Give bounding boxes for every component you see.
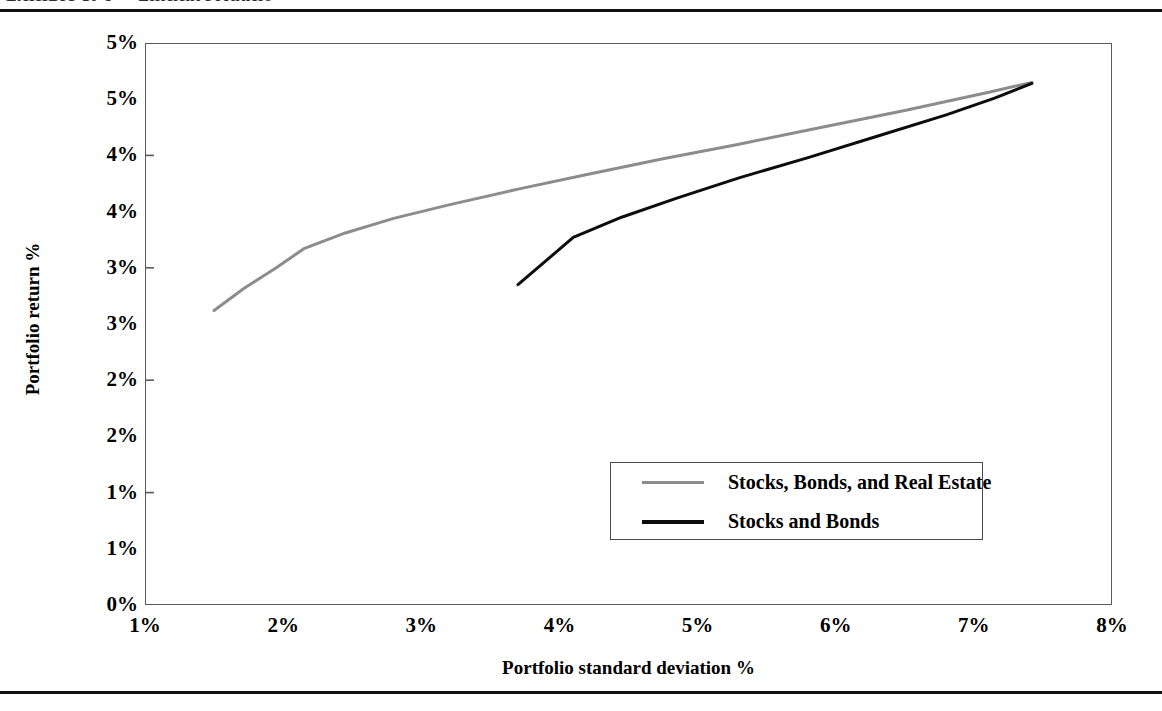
y-axis-tick-label: 4% xyxy=(76,144,138,165)
legend-label-stocks-bonds: Stocks and Bonds xyxy=(728,510,879,533)
chart-area: 0%1%1%2%2%3%3%4%4%5%5% 1%2%3%4%5%6%7%8% … xyxy=(0,14,1162,689)
legend-item: Stocks, Bonds, and Real Estate xyxy=(611,463,984,502)
x-axis-tick-label: 2% xyxy=(248,615,318,636)
x-axis-tick-label: 3% xyxy=(386,615,456,636)
y-axis-tick-labels: 0%1%1%2%2%3%3%4%4%5%5% xyxy=(60,43,138,605)
y-axis-tick-label: 4% xyxy=(76,201,138,222)
y-axis-tick-label: 1% xyxy=(76,482,138,503)
y-axis-tick-label: 3% xyxy=(76,313,138,334)
x-axis-tick-label: 6% xyxy=(801,615,871,636)
series-line-stocks-bonds xyxy=(518,83,1032,284)
bottom-rule xyxy=(0,691,1162,694)
x-axis-tick-label: 8% xyxy=(1077,615,1147,636)
y-axis-tick-label: 2% xyxy=(76,425,138,446)
x-axis-tick-label: 5% xyxy=(663,615,733,636)
x-axis-title: Portfolio standard deviation % xyxy=(145,657,1112,679)
chart-legend: Stocks, Bonds, and Real Estate Stocks an… xyxy=(610,462,983,540)
y-axis-title: Portfolio return % xyxy=(22,199,44,439)
x-axis-tick-label: 4% xyxy=(524,615,594,636)
legend-color-swatch-stocks-bonds xyxy=(642,520,704,524)
x-axis-tick-label: 7% xyxy=(939,615,1009,636)
y-axis-tick-label: 5% xyxy=(76,88,138,109)
y-axis-tick-label: 0% xyxy=(76,594,138,615)
y-axis-tick-label: 2% xyxy=(76,369,138,390)
y-axis-tick-label: 3% xyxy=(76,257,138,278)
y-axis-tick-label: 5% xyxy=(76,32,138,53)
x-axis-tick-labels: 1%2%3%4%5%6%7%8% xyxy=(145,615,1112,645)
legend-color-swatch-real-estate xyxy=(642,481,704,484)
exhibit-title: Efficient Frontiers xyxy=(138,0,272,4)
exhibit-number: EXHIBIT 10-8 xyxy=(6,0,112,4)
top-rule xyxy=(0,9,1162,12)
exhibit-page: EXHIBIT 10-8Efficient Frontiers 0%1%1%2%… xyxy=(0,0,1162,711)
exhibit-caption: EXHIBIT 10-8Efficient Frontiers xyxy=(6,0,272,5)
legend-label-real-estate: Stocks, Bonds, and Real Estate xyxy=(728,471,991,494)
series-line-real-estate xyxy=(214,82,1032,310)
y-axis-tick-label: 1% xyxy=(76,538,138,559)
legend-item: Stocks and Bonds xyxy=(611,502,984,541)
x-axis-tick-label: 1% xyxy=(110,615,180,636)
